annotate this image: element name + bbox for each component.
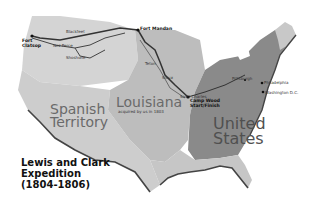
map-title: Lewis and Clark Expedition (1804-1806) (21, 157, 110, 190)
washington-label: Washington D.C. (265, 90, 298, 95)
fort-clatsop-line2: Clatsop (22, 43, 41, 48)
pittsburgh-label: Pittsburgh (232, 76, 252, 81)
title-line1: Lewis and Clark (21, 157, 110, 168)
philadelphia-marker (261, 82, 264, 85)
title-line3: (1804-1806) (21, 179, 110, 190)
nez-perce-label: Nez Perce (53, 43, 73, 48)
teton-label: Teton (145, 61, 156, 66)
fort-clatsop-label: Fort Clatsop (22, 38, 41, 48)
united-states-label: United States (213, 116, 266, 146)
great-lakes (205, 38, 250, 60)
camp-wood-label: Camp Wood Start/Finish (190, 98, 220, 108)
title-line2: Expedition (21, 168, 110, 179)
region-northwest (22, 16, 138, 86)
us-line2: States (213, 131, 266, 146)
philadelphia-label: Philadelphia (264, 80, 288, 85)
washington-marker (262, 91, 265, 94)
camp-wood-line2: Start/Finish (190, 103, 220, 108)
spanish-line2: Territory (50, 116, 108, 129)
shoshone-label: Shoshone (66, 55, 86, 60)
blackfeet-label: Blackfeet (66, 29, 85, 34)
louisiana-subtitle: acquired by us in 1803 (118, 109, 164, 114)
fort-mandan-label: Fort Mandan (140, 26, 172, 31)
sioux-label: Sioux (162, 75, 173, 80)
louisiana-label: Louisiana (116, 96, 182, 109)
spanish-territory-label: Spanish Territory (50, 103, 108, 129)
